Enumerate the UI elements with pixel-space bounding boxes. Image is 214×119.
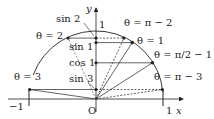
radius-theta3: [30, 90, 96, 100]
tick-pos1-x-label: 1: [166, 105, 172, 116]
tick-neg1-label: −1: [9, 101, 24, 112]
point-theta3: [28, 88, 31, 91]
label-pi-minus-3: θ = π − 3: [154, 71, 202, 82]
point-y-sin1: [94, 41, 97, 44]
tick-pos1-y-label: 1: [99, 19, 105, 30]
label-sin2: sin 2: [56, 13, 80, 24]
label-theta1: θ = 1: [137, 35, 164, 46]
unit-circle-diagram: y x O −1 1 1 sin 2 sin 1 cos 1 sin 3 θ =…: [0, 0, 214, 119]
label-theta2: θ = 2: [36, 30, 63, 41]
label-cos1: cos 1: [69, 57, 95, 68]
point-y-sin3: [94, 88, 97, 91]
y-axis-label: y: [85, 3, 92, 14]
point-half-pi-minus-1: [151, 61, 155, 65]
point-theta1: [130, 41, 134, 45]
origin-label: O: [88, 105, 96, 116]
point-y-sin2: [94, 37, 97, 40]
radius-theta1: [96, 43, 132, 99]
radius-half-pi-minus-1: [96, 63, 152, 99]
point-theta2: [67, 37, 70, 40]
label-theta3: θ = 3: [14, 71, 41, 82]
radius-pi-minus-3: [96, 90, 162, 100]
x-axis-label: x: [176, 105, 182, 116]
label-sin3: sin 3: [69, 73, 93, 84]
leader-sin2: [84, 23, 94, 36]
label-sin1: sin 1: [69, 41, 93, 52]
label-half-pi-minus-1: θ = π/2 − 1: [154, 49, 212, 60]
label-pi-minus-2: θ = π − 2: [124, 17, 172, 28]
point-pi-minus-2: [122, 37, 125, 40]
point-pi-minus-3: [161, 88, 164, 91]
